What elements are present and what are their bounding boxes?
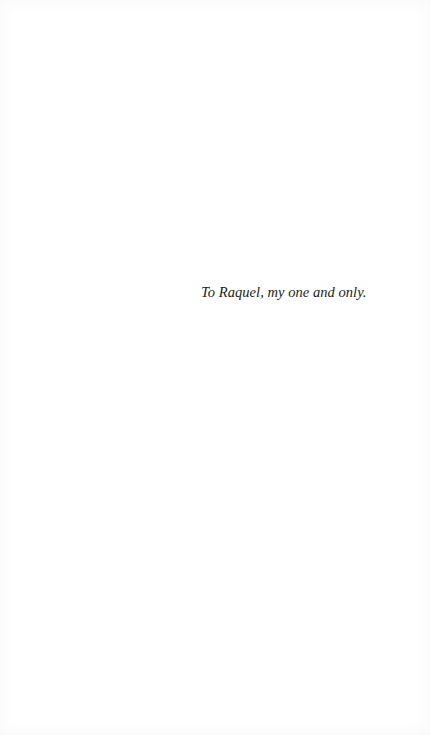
dedication-text: To Raquel, my one and only. — [201, 283, 367, 301]
book-page: To Raquel, my one and only. — [0, 0, 430, 735]
